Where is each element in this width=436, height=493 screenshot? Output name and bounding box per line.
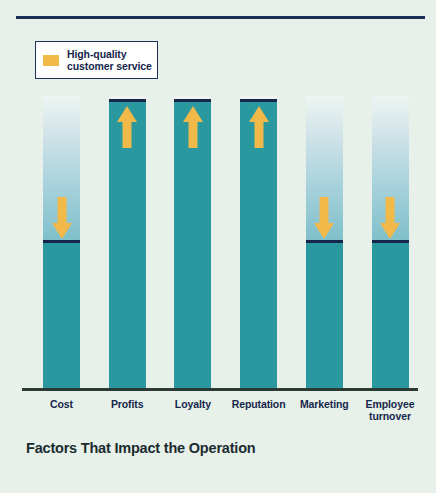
figure-container: High-quality customer service Factors Th… [0,0,436,493]
bar-cap-line [306,240,343,243]
bar-employee-turnover [372,96,409,389]
bar-marketing [306,96,343,389]
category-label-cost: Cost [24,398,100,410]
trend-arrow-up [182,105,204,149]
bar-cap-line [109,99,146,102]
axis-baseline [22,388,418,391]
top-divider-rule [16,16,425,19]
category-label-marketing: Marketing [286,398,362,410]
category-label-employee-turnover: Employee turnover [352,398,428,422]
bar-cap-line [174,99,211,102]
bar-profits [109,96,146,389]
legend-label-line1: High-quality [67,48,126,60]
bar-cap-line [43,240,80,243]
bar-loyalty [174,96,211,389]
bar-reputation [240,96,277,389]
trend-arrow-up [116,105,138,149]
trend-arrow-down [379,196,401,240]
category-label-loyalty: Loyalty [155,398,231,410]
figure-caption: Factors That Impact the Operation [26,440,255,456]
legend-label-line2: customer service [67,60,152,72]
bar-value-block [306,243,343,390]
bar-value-block [43,243,80,390]
plot-area [25,96,415,389]
trend-arrow-down [51,196,73,240]
category-label-reputation: Reputation [221,398,297,410]
bar-cap-line [240,99,277,102]
legend-color-swatch [43,55,59,66]
trend-arrow-down [313,196,335,240]
legend-label: High-quality customer service [67,48,152,73]
category-label-profits: Profits [89,398,165,410]
bar-cap-line [372,240,409,243]
legend-box: High-quality customer service [35,41,158,79]
trend-arrow-up [248,105,270,149]
bar-value-block [372,243,409,390]
bar-cost [43,96,80,389]
